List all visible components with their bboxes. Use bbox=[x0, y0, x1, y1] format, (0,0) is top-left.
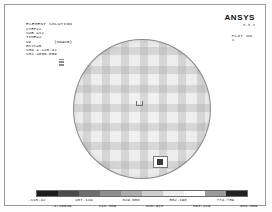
solution-header-block: ELEMENT SOLUTION STEP=2 SUB =11 TIME=2 U… bbox=[26, 22, 72, 56]
legend-band-4 bbox=[121, 191, 142, 196]
legend-tick-7: 663.429 bbox=[193, 204, 211, 208]
legend-tick-1: -4.15049 bbox=[52, 204, 72, 208]
legend-tick-8: 774.739 bbox=[216, 198, 234, 202]
mx-node-glyph bbox=[157, 159, 163, 165]
legend-band-6 bbox=[163, 191, 184, 196]
legend-tick-6: 552.198 bbox=[169, 198, 187, 202]
legend-band-8 bbox=[205, 191, 226, 196]
circular-mesh-disc bbox=[73, 39, 211, 179]
plot-number-label: PLOT NO. 1 bbox=[214, 30, 255, 46]
legend-tick-2: 107.119 bbox=[75, 198, 93, 202]
ansys-logo-block: ANSYS 5.5.3 bbox=[224, 14, 255, 27]
legend-tick-5: 440.928 bbox=[146, 204, 164, 208]
legend-band-9 bbox=[226, 191, 247, 196]
ansys-plot-window: ELEMENT SOLUTION STEP=2 SUB =11 TIME=2 U… bbox=[0, 0, 272, 212]
legend-tick-9: 886.009 bbox=[240, 204, 258, 208]
solution-title: ELEMENT SOLUTION bbox=[26, 22, 72, 26]
mn-edge-marker bbox=[59, 59, 64, 66]
legend-tick-0: -115.42 bbox=[28, 198, 46, 202]
mn-node-marker bbox=[136, 101, 143, 106]
legend-band-5 bbox=[142, 191, 163, 196]
contour-legend-bar bbox=[36, 190, 248, 197]
legend-band-1 bbox=[58, 191, 79, 196]
legend-band-0 bbox=[37, 191, 58, 196]
plot-number-value: 1 bbox=[232, 38, 235, 42]
plot-number-text: PLOT NO. bbox=[232, 34, 255, 38]
legend-band-2 bbox=[79, 191, 100, 196]
plot-frame: ELEMENT SOLUTION STEP=2 SUB =11 TIME=2 U… bbox=[4, 4, 266, 206]
legend-band-7 bbox=[184, 191, 205, 196]
header-line-smx: SMX =886.009 bbox=[26, 52, 72, 56]
ansys-version-text: 5.5.3 bbox=[224, 23, 255, 27]
contour-legend-labels: -115.42-4.15049107.119218.389329.658440.… bbox=[5, 197, 272, 212]
legend-tick-3: 218.389 bbox=[99, 204, 117, 208]
legend-band-3 bbox=[100, 191, 121, 196]
legend-tick-4: 329.658 bbox=[122, 198, 140, 202]
ansys-brand-text: ANSYS bbox=[224, 14, 255, 22]
mesh-plot-area bbox=[67, 35, 217, 187]
